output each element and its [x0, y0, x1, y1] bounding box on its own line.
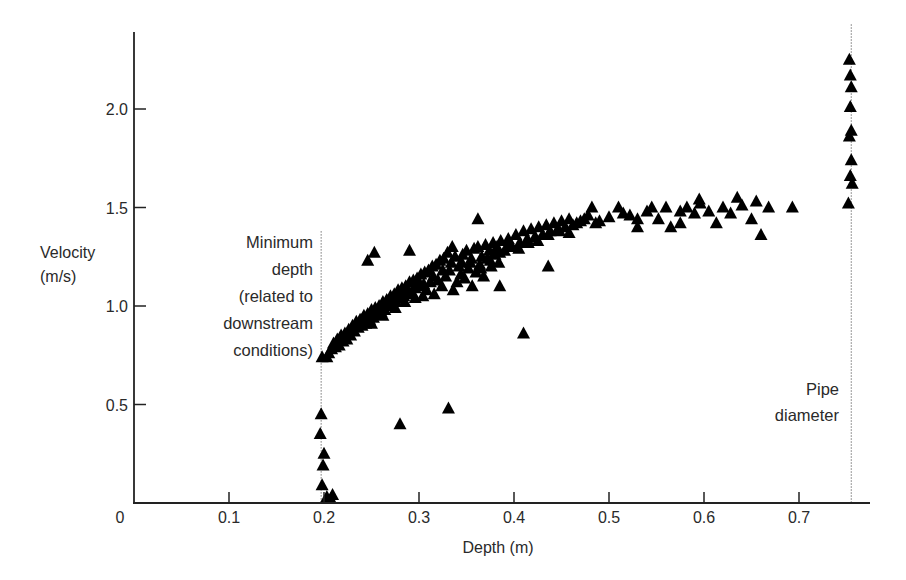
x-tick-label: 0: [116, 509, 125, 526]
x-tick-label: 0.2: [313, 509, 335, 526]
triangle-marker: [442, 401, 455, 413]
triangle-marker: [843, 53, 856, 65]
min-depth-label-2: depth: [272, 260, 313, 278]
min-depth-label-1: Minimum: [246, 233, 313, 251]
x-axis-ticks: 00.10.20.30.40.50.60.7: [116, 492, 811, 526]
y-tick-label: 1.5: [106, 200, 128, 217]
minimum-depth-annotation: Minimum depth (related to downstream con…: [223, 233, 313, 359]
triangle-marker: [585, 201, 598, 213]
x-tick-label: 0.5: [598, 509, 620, 526]
triangle-marker: [316, 478, 329, 490]
min-depth-label-5: conditions): [233, 341, 313, 359]
y-tick-label: 1.0: [106, 298, 128, 315]
x-tick-label: 0.1: [218, 509, 240, 526]
triangle-marker: [471, 212, 484, 224]
triangle-marker: [517, 327, 530, 339]
triangle-marker: [317, 459, 330, 471]
pipe-label-1: Pipe: [806, 380, 839, 398]
triangle-marker: [717, 201, 730, 213]
triangle-marker: [660, 201, 673, 213]
triangle-marker: [845, 153, 858, 165]
triangle-marker: [446, 240, 459, 252]
triangle-marker: [844, 100, 857, 112]
scatter-chart: 00.10.20.30.40.50.60.7 0.51.01.52.0 Velo…: [0, 0, 906, 580]
triangle-marker: [652, 212, 665, 224]
triangle-marker: [680, 201, 693, 213]
triangle-marker: [745, 212, 758, 224]
y-tick-label: 2.0: [106, 101, 128, 118]
triangle-marker: [844, 69, 857, 81]
triangle-marker: [542, 260, 555, 272]
triangle-marker: [755, 228, 768, 240]
triangle-marker: [368, 246, 381, 258]
pipe-label-2: diameter: [775, 406, 840, 424]
triangle-marker: [842, 197, 855, 209]
triangle-marker: [844, 169, 857, 181]
reference-lines: [321, 24, 851, 503]
triangle-marker: [845, 80, 858, 92]
triangle-marker: [394, 417, 407, 429]
triangle-marker: [315, 407, 328, 419]
y-axis-ticks: 0.51.01.52.0: [106, 101, 146, 414]
pipe-diameter-annotation: Pipe diameter: [775, 380, 840, 424]
min-depth-label-4: downstream: [223, 314, 313, 332]
x-axis-title: Depth (m): [462, 539, 533, 556]
triangle-marker: [750, 195, 763, 207]
triangle-marker: [318, 447, 331, 459]
y-axis-title-line1: Velocity: [40, 244, 95, 261]
triangle-marker: [710, 216, 723, 228]
x-tick-label: 0.4: [503, 509, 525, 526]
triangle-marker: [786, 201, 799, 213]
x-tick-label: 0.3: [408, 509, 430, 526]
triangle-marker: [674, 216, 687, 228]
x-tick-label: 0.6: [693, 509, 715, 526]
data-points: [314, 53, 859, 504]
triangle-marker: [403, 244, 416, 256]
triangle-marker: [762, 201, 775, 213]
triangle-marker: [314, 427, 327, 439]
x-tick-label: 0.7: [788, 509, 810, 526]
min-depth-label-3: (related to: [239, 287, 313, 305]
triangle-marker: [493, 279, 506, 291]
y-axis-title-line2: (m/s): [40, 268, 76, 285]
y-tick-label: 0.5: [106, 397, 128, 414]
